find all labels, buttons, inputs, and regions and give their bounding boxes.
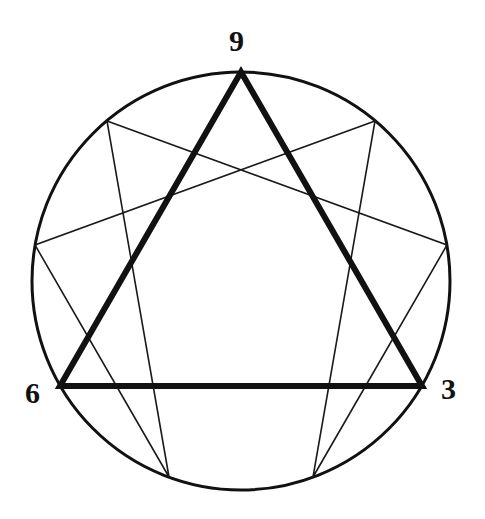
node-label-6: 6 (25, 378, 40, 408)
enneagram-figure: 9 6 3 (0, 0, 485, 519)
enneagram-drawing (0, 0, 485, 519)
node-label-9: 9 (229, 26, 244, 56)
node-label-3: 3 (441, 374, 456, 404)
